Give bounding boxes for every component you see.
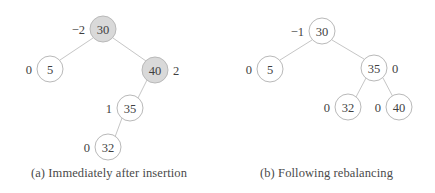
balance-factor-label-32: 0: [324, 101, 330, 115]
tree-node-35: 351: [106, 95, 143, 121]
balance-factor-label-40: 2: [173, 64, 179, 78]
avl-tree-figure: 30−250402351320 (a) Immediately after in…: [0, 0, 435, 193]
tree-node-5: 50: [26, 56, 63, 82]
tree-node-40: 400: [375, 94, 412, 120]
balance-factor-label-35: 1: [106, 102, 112, 116]
node-key-label: 5: [47, 63, 53, 77]
tree-edge-30-to-5: [60, 38, 93, 60]
balance-factor-label-30: −1: [291, 25, 304, 39]
tree-node-40: 402: [142, 57, 179, 83]
tree-edge-30-to-35: [332, 40, 364, 59]
node-key-label: 32: [102, 141, 115, 155]
tree-diagram-a: 30−250402351320: [0, 0, 218, 165]
panel-a-after-insertion: 30−250402351320 (a) Immediately after in…: [0, 0, 218, 193]
node-key-label: 40: [393, 101, 406, 115]
tree-node-30: 30−2: [72, 16, 116, 42]
node-key-label: 30: [316, 25, 329, 39]
panel-b-following-rebalancing: 30−150350320400 (b) Following rebalancin…: [218, 0, 435, 193]
node-key-label: 40: [149, 64, 162, 78]
balance-factor-label-35: 0: [392, 62, 398, 76]
tree-edge-35-to-40: [383, 78, 393, 97]
tree-node-32: 320: [324, 94, 361, 120]
node-key-label: 5: [267, 63, 273, 77]
tree-edge-40-to-35: [138, 80, 147, 98]
panel-a-caption: (a) Immediately after insertion: [0, 166, 218, 181]
node-key-label: 35: [368, 62, 381, 76]
tree-edge-30-to-5: [280, 40, 312, 60]
tree-node-5: 50: [246, 56, 283, 82]
balance-factor-label-40: 0: [375, 101, 381, 115]
balance-factor-label-5: 0: [26, 63, 32, 77]
tree-node-35: 350: [361, 55, 398, 81]
tree-edge-35-to-32: [356, 78, 366, 97]
tree-edge-30-to-40: [113, 38, 146, 61]
balance-factor-label-5: 0: [246, 63, 252, 77]
node-key-label: 35: [124, 102, 137, 116]
tree-node-30: 30−1: [291, 18, 335, 44]
node-key-label: 32: [342, 101, 355, 115]
balance-factor-label-32: 0: [84, 141, 90, 155]
panel-b-caption: (b) Following rebalancing: [218, 166, 435, 181]
tree-node-32: 320: [84, 134, 121, 160]
balance-factor-label-30: −2: [72, 23, 85, 37]
node-key-label: 30: [97, 23, 110, 37]
tree-diagram-b: 30−150350320400: [218, 0, 435, 165]
tree-edge-35-to-32: [115, 118, 122, 137]
